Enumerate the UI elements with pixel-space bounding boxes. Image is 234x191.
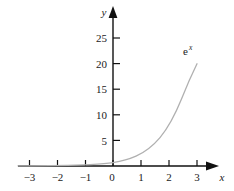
x-tick-label-1: 1 — [138, 171, 144, 183]
y-axis-arrowhead — [109, 6, 118, 18]
x-tick-label-3: 3 — [194, 171, 200, 183]
y-tick-labels: 5 10 15 20 25 — [96, 32, 108, 146]
y-axis-label: y — [101, 6, 107, 18]
y-tick-label-5: 5 — [102, 135, 108, 147]
y-tick-label-10: 10 — [96, 109, 108, 121]
x-axis-label: x — [219, 171, 225, 183]
x-tick-label--3: −3 — [24, 171, 36, 183]
curve-label: e x — [183, 43, 193, 57]
exponential-function-figure: −3 −2 −1 0 1 2 3 5 10 15 20 25 x y e x — [0, 0, 234, 191]
plot-canvas: −3 −2 −1 0 1 2 3 5 10 15 20 25 x y e x — [0, 0, 234, 191]
exponential-curve-visible — [18, 64, 197, 166]
x-tick-label--1: −1 — [80, 171, 92, 183]
curve-label-base: e — [183, 45, 188, 57]
x-axis-arrowhead — [206, 162, 219, 171]
x-tick-label-2: 2 — [166, 171, 172, 183]
y-axis-ticks — [113, 38, 120, 140]
x-tick-labels: −3 −2 −1 0 1 2 3 — [24, 171, 201, 183]
curve-label-exponent: x — [188, 43, 193, 52]
x-tick-label--2: −2 — [52, 171, 64, 183]
y-tick-label-15: 15 — [96, 83, 108, 95]
x-tick-label-0: 0 — [109, 171, 115, 183]
y-tick-label-25: 25 — [96, 32, 108, 44]
y-tick-label-20: 20 — [96, 58, 108, 70]
